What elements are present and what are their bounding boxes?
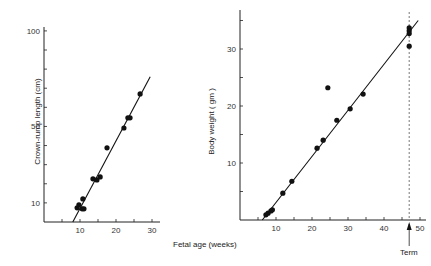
x-tick-label: 30 [148,226,157,235]
data-point [98,174,103,179]
data-point [138,91,143,96]
data-point [407,31,412,36]
data-point [121,125,126,130]
data-point [289,179,294,184]
term-label: Term [400,248,418,257]
x-tick-label: 10 [76,226,85,235]
data-point [314,146,319,151]
left-y-axis-label: Crown-rump length (cm) [33,67,42,177]
data-point [348,106,353,111]
data-point [361,91,366,96]
regression-line [262,21,418,221]
data-point [334,118,339,123]
term-arrow-icon [407,222,412,230]
data-point [104,145,109,150]
data-point [280,191,285,196]
data-point [80,196,85,201]
y-tick-label: 10 [31,199,40,208]
data-point [76,202,81,207]
x-tick-label: 20 [112,226,121,235]
right-y-axis-label: Body weight ( gm ) [207,77,216,167]
x-tick-label: 40 [380,224,389,233]
y-tick-label: 20 [227,102,236,111]
y-tick-label: 10 [227,159,236,168]
data-point [270,207,275,212]
data-point [321,138,326,143]
x-tick-label: 10 [272,224,281,233]
y-tick-label: 30 [227,45,236,54]
x-axis-label: Fetal age (weeks) [173,240,237,249]
x-tick-label: 20 [308,224,317,233]
data-point [407,44,412,49]
x-tick-label: 50 [416,224,425,233]
chart-body-weight: 1020304050102030 [227,10,426,246]
chart-crown-rump-length: 1020301050100 [27,27,160,235]
x-tick-label: 30 [344,224,353,233]
data-point [81,206,86,211]
data-point [127,115,132,120]
data-point [325,85,330,90]
y-tick-label: 100 [27,27,41,36]
figure: 1020301050100 1020304050102030 [0,0,431,266]
